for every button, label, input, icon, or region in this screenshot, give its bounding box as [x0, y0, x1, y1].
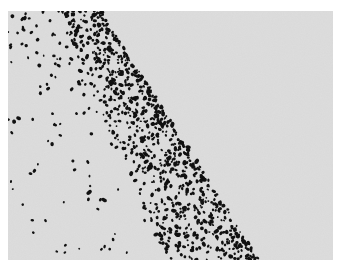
speck-scatter — [8, 11, 333, 260]
photo-frame — [0, 0, 339, 270]
paper-grain — [8, 11, 333, 260]
speckled-paper-photo — [8, 11, 333, 260]
